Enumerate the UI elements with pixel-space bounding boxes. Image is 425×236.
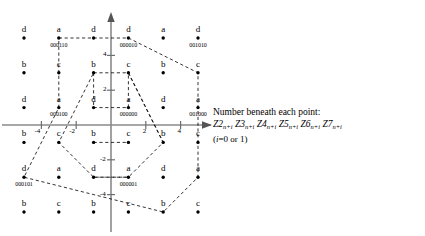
formula-term: Z6n+i <box>301 119 321 129</box>
lattice-point-letter: b <box>22 60 27 69</box>
lattice-point-code: 000101 <box>15 181 32 187</box>
lattice-point <box>127 71 130 74</box>
lattice-point-letter: b <box>161 60 166 69</box>
formula-term: Z3n+i <box>235 119 255 129</box>
lattice-point-letter: b <box>91 129 96 138</box>
y-tick-label: 2 <box>103 86 107 93</box>
lattice-point-letter: d <box>196 25 201 34</box>
caption-line-1: Number beneath each point: <box>213 106 423 118</box>
lattice-point-letter: d <box>126 25 131 34</box>
lattice-point-letter: a <box>196 164 200 173</box>
lattice-point-letter: d <box>22 95 27 104</box>
lattice-point-code: 001010 <box>189 42 206 48</box>
lattice-point <box>196 106 199 109</box>
lattice-point <box>162 176 165 179</box>
lattice-point <box>57 36 60 39</box>
lattice-point <box>162 36 165 39</box>
x-tick-label: 2 <box>143 128 147 135</box>
lattice-point-code: 000100 <box>50 111 67 117</box>
lattice-point-letter: c <box>196 129 200 138</box>
lattice-point-code: 000110 <box>50 42 67 48</box>
lattice-point-letter: c <box>196 199 200 208</box>
lattice-point-letter: b <box>161 129 166 138</box>
lattice-point <box>196 210 199 213</box>
y-axis-arrowhead <box>107 12 114 22</box>
lattice-point <box>22 71 25 74</box>
lattice-point <box>196 36 199 39</box>
caption-formula: Z2n+i Z3n+i Z4n+i Z5n+i Z6n+i Z7n+i <box>213 118 423 133</box>
lattice-point <box>92 176 95 179</box>
lattice-point-code: 001000 <box>189 111 206 117</box>
lattice-point <box>162 210 165 213</box>
y-tick-label: 4 <box>103 51 107 58</box>
lattice-point <box>92 71 95 74</box>
lattice-point-code: 000001 <box>120 181 137 187</box>
lattice-point <box>92 141 95 144</box>
lattice-point-letter: d <box>22 164 27 173</box>
lattice-point <box>57 106 60 109</box>
lattice-point-letter: a <box>196 95 200 104</box>
lattice-point-letter: a <box>57 25 61 34</box>
lattice-point-letter: c <box>57 60 61 69</box>
lattice-point-letter: b <box>91 199 96 208</box>
x-tick-label: 4 <box>178 128 182 135</box>
lattice-point-letter: a <box>126 95 130 104</box>
lattice-point-letter: a <box>57 95 61 104</box>
x-axis-arrowhead <box>202 121 212 128</box>
lattice-point <box>57 71 60 74</box>
lattice-point-letter: d <box>91 95 96 104</box>
lattice-point <box>22 176 25 179</box>
y-tick-label: -4 <box>100 191 106 198</box>
lattice-point <box>127 141 130 144</box>
caption-note: (i=0 or 1) <box>213 133 423 145</box>
lattice-point-letter: a <box>57 164 61 173</box>
lattice-point-letter: d <box>161 164 166 173</box>
lattice-point <box>57 141 60 144</box>
lattice-point <box>92 36 95 39</box>
lattice-point-code: 000000 <box>120 111 137 117</box>
lattice-point-letter: b <box>91 60 96 69</box>
lattice-point-letter: b <box>22 199 27 208</box>
lattice-point <box>22 106 25 109</box>
x-tick-label: -2 <box>69 128 75 135</box>
lattice-point <box>127 36 130 39</box>
lattice-point <box>127 176 130 179</box>
lattice-point-letter: d <box>91 25 96 34</box>
formula-term: Z7n+i <box>322 119 342 129</box>
lattice-point <box>92 106 95 109</box>
lattice-point <box>22 36 25 39</box>
x-tick-label: -4 <box>34 128 40 135</box>
formula-term: Z4n+i <box>257 119 277 129</box>
lattice-point <box>22 141 25 144</box>
lattice-plot <box>0 0 212 236</box>
lattice-point-letter: d <box>161 95 166 104</box>
lattice-point-letter: d <box>91 164 96 173</box>
formula-term: Z5n+i <box>279 119 299 129</box>
lattice-point <box>57 176 60 179</box>
lattice-point <box>162 71 165 74</box>
lattice-point-letter: a <box>161 25 165 34</box>
lattice-point <box>162 106 165 109</box>
lattice-point-letter: a <box>126 164 130 173</box>
lattice-point <box>196 71 199 74</box>
lattice-point-letter: b <box>161 199 166 208</box>
lattice-point-letter: c <box>126 60 130 69</box>
lattice-point <box>57 210 60 213</box>
lattice-point-code: 000010 <box>120 42 137 48</box>
formula-term: Z2n+i <box>213 119 233 129</box>
y-tick-label: -2 <box>100 156 106 163</box>
lattice-point <box>196 176 199 179</box>
figure-caption: Number beneath each point: Z2n+i Z3n+i Z… <box>213 106 423 145</box>
lattice-point <box>22 210 25 213</box>
lattice-figure: -4-22442-2-4da000110dd000010ad001010bcbc… <box>0 0 425 236</box>
lattice-point <box>92 210 95 213</box>
lattice-point <box>127 106 130 109</box>
lattice-point-letter: c <box>57 199 61 208</box>
lattice-point-letter: d <box>22 25 27 34</box>
lattice-point-letter: b <box>22 129 27 138</box>
lattice-point <box>196 141 199 144</box>
lattice-point <box>162 141 165 144</box>
lattice-point-letter: c <box>126 199 130 208</box>
lattice-point-letter: c <box>126 129 130 138</box>
lattice-point-letter: c <box>196 60 200 69</box>
